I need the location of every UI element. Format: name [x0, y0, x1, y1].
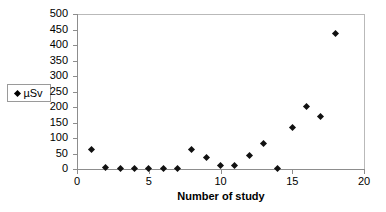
- y-axis-tick-label: 300: [38, 70, 68, 81]
- scatter-chart: µSv 050100150200250300350400450500 05101…: [0, 0, 386, 212]
- y-axis-tick: [73, 154, 77, 155]
- x-axis-tick: [77, 170, 78, 174]
- x-axis-tick: [292, 170, 293, 174]
- y-axis-tick: [73, 45, 77, 46]
- diamond-marker-icon: [14, 89, 21, 96]
- x-axis-tick-label: 10: [209, 176, 233, 187]
- y-axis-tick: [73, 107, 77, 108]
- x-axis-tick-label: 0: [65, 176, 89, 187]
- y-axis-tick-label: 100: [38, 132, 68, 143]
- y-axis-tick: [73, 76, 77, 77]
- y-axis-tick-label: 500: [38, 8, 68, 19]
- y-axis-tick-label: 250: [38, 86, 68, 97]
- y-axis-tick-label: 350: [38, 55, 68, 66]
- x-axis-tick: [221, 170, 222, 174]
- y-axis-tick: [73, 61, 77, 62]
- data-point: [117, 165, 124, 172]
- y-axis-tick-label: 200: [38, 101, 68, 112]
- x-axis-tick: [364, 170, 365, 174]
- x-axis-tick-label: 20: [352, 176, 376, 187]
- y-axis-tick-label: 0: [38, 163, 68, 174]
- x-axis-tick-label: 15: [280, 176, 304, 187]
- y-axis-tick: [73, 14, 77, 15]
- x-axis-tick-label: 5: [137, 176, 161, 187]
- y-axis-tick: [73, 30, 77, 31]
- y-axis-tick-label: 400: [38, 39, 68, 50]
- y-axis-tick-label: 150: [38, 117, 68, 128]
- data-point: [160, 165, 167, 172]
- y-axis-tick: [73, 123, 77, 124]
- y-axis-tick: [73, 92, 77, 93]
- x-axis-title: Number of study: [77, 190, 365, 202]
- plot-area: [77, 14, 365, 170]
- y-axis-tick-label: 450: [38, 24, 68, 35]
- y-axis-tick: [73, 138, 77, 139]
- y-axis-tick-label: 50: [38, 148, 68, 159]
- y-axis-line: [77, 14, 78, 170]
